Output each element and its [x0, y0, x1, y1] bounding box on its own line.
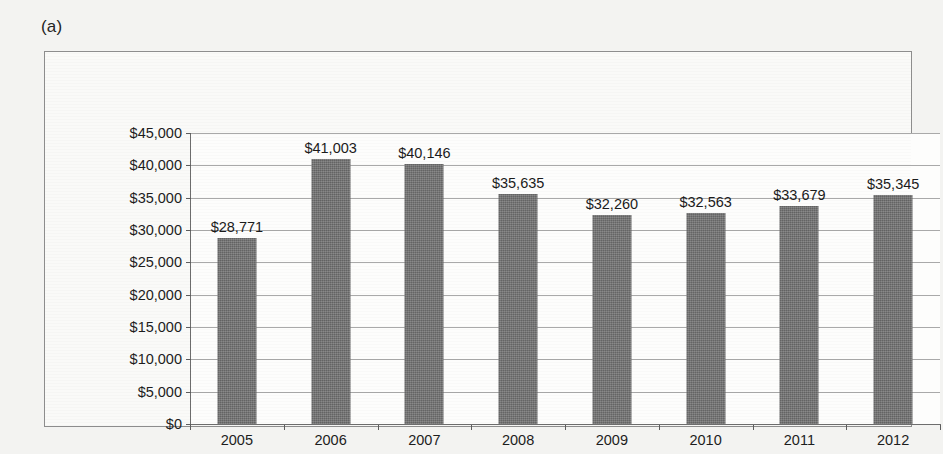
value-axis-line — [190, 133, 191, 425]
y-tick-mark — [186, 295, 191, 296]
y-tick-mark — [186, 262, 191, 263]
y-tick-label: $30,000 — [92, 222, 182, 238]
y-tick-label: $45,000 — [92, 125, 182, 141]
x-tick-label: 2012 — [846, 432, 940, 448]
y-tick-mark — [186, 133, 191, 134]
bar-slot: $28,771 — [190, 133, 284, 424]
y-tick-mark — [186, 392, 191, 393]
bar[interactable] — [780, 206, 819, 424]
bar[interactable] — [405, 164, 444, 424]
y-tick-mark — [186, 198, 191, 199]
y-tick-mark — [186, 230, 191, 231]
y-tick-label: $35,000 — [92, 190, 182, 206]
x-tick-mark — [753, 425, 754, 430]
x-tick-label: 2006 — [284, 432, 378, 448]
x-tick-label: 2005 — [190, 432, 284, 448]
bar[interactable] — [499, 194, 538, 424]
y-axis-tick-labels: $0$5,000$10,000$15,000$20,000$25,000$30,… — [87, 52, 182, 426]
y-tick-label: $5,000 — [92, 384, 182, 400]
bar[interactable] — [874, 195, 913, 424]
y-tick-label: $25,000 — [92, 254, 182, 270]
x-tick-mark — [190, 425, 191, 430]
bar-data-label: $32,260 — [586, 196, 638, 212]
y-tick-label: $15,000 — [92, 319, 182, 335]
x-tick-mark — [659, 425, 660, 430]
x-tick-mark — [565, 425, 566, 430]
x-tick-mark — [378, 425, 379, 430]
bar-data-label: $35,345 — [867, 176, 919, 192]
bar-data-label: $41,003 — [304, 140, 356, 156]
bar[interactable] — [686, 213, 725, 424]
bar-data-label: $33,679 — [773, 187, 825, 203]
chart-frame: $28,771$41,003$40,146$35,635$32,260$32,5… — [44, 51, 912, 427]
x-tick-mark — [471, 425, 472, 430]
y-tick-mark — [186, 165, 191, 166]
bar-slot: $41,003 — [284, 133, 378, 424]
y-tick-mark — [186, 327, 191, 328]
bar-data-label: $40,146 — [398, 145, 450, 161]
x-tick-mark — [940, 425, 941, 430]
bar-slot: $35,635 — [471, 133, 565, 424]
x-tick-label: 2011 — [753, 432, 847, 448]
x-tick-label: 2010 — [659, 432, 753, 448]
panel-label: (a) — [41, 17, 62, 37]
bar-slot: $32,260 — [565, 133, 659, 424]
bar-slot: $40,146 — [378, 133, 472, 424]
bar-data-label: $28,771 — [211, 219, 263, 235]
bar-slot: $35,345 — [846, 133, 940, 424]
bar-slot: $32,563 — [659, 133, 753, 424]
bar-data-label: $35,635 — [492, 175, 544, 191]
y-tick-label: $10,000 — [92, 351, 182, 367]
bar-data-label: $32,563 — [679, 194, 731, 210]
x-tick-label: 2007 — [378, 432, 472, 448]
x-tick-mark — [284, 425, 285, 430]
y-tick-label: $0 — [92, 416, 182, 432]
bar[interactable] — [217, 238, 256, 424]
plot-area: $28,771$41,003$40,146$35,635$32,260$32,5… — [190, 133, 940, 424]
x-tick-label: 2009 — [565, 432, 659, 448]
y-tick-mark — [186, 359, 191, 360]
x-tick-label: 2008 — [471, 432, 565, 448]
bar[interactable] — [592, 215, 631, 424]
x-tick-mark — [846, 425, 847, 430]
bar-slot: $33,679 — [753, 133, 847, 424]
y-tick-label: $40,000 — [92, 157, 182, 173]
x-axis-tick-labels: 20052006200720082009201020112012 — [190, 432, 940, 454]
bar[interactable] — [311, 159, 350, 424]
y-tick-label: $20,000 — [92, 287, 182, 303]
